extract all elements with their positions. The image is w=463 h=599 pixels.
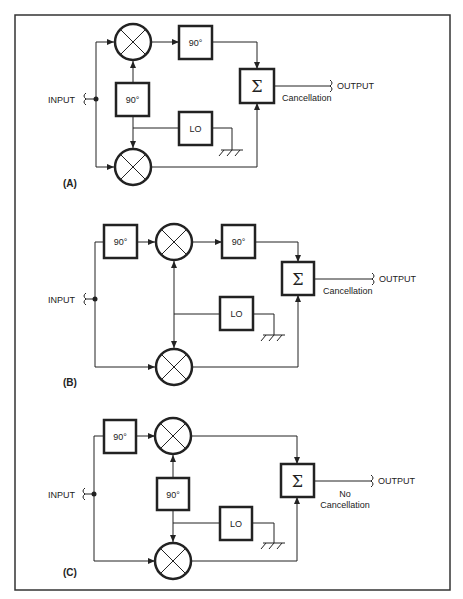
- output-label: OUTPUT: [378, 476, 416, 486]
- input-brace-icon: [84, 93, 86, 105]
- panel-label: (A): [63, 178, 77, 189]
- svg-text:LO: LO: [189, 124, 201, 134]
- svg-text:LO: LO: [230, 309, 242, 319]
- ground-icon: [252, 523, 285, 549]
- output-label: OUTPUT: [337, 81, 375, 91]
- output-label: OUTPUT: [379, 274, 417, 284]
- panel-label: (B): [63, 377, 77, 388]
- mixer-top-icon: [155, 418, 191, 454]
- svg-text:90°: 90°: [113, 432, 127, 442]
- input-brace-icon: [84, 293, 86, 305]
- mixer-bottom-icon: [115, 149, 151, 185]
- input-label: INPUT: [48, 95, 76, 105]
- input-brace-icon: [83, 488, 85, 500]
- result-label-line2: Cancellation: [320, 500, 370, 510]
- output-brace-icon: [372, 273, 374, 285]
- result-label: Cancellation: [323, 286, 373, 296]
- mixer-bottom-icon: [156, 349, 192, 385]
- svg-text:Σ: Σ: [292, 270, 303, 289]
- ground-icon: [253, 314, 285, 341]
- output-brace-icon: [330, 80, 332, 92]
- result-label: Cancellation: [282, 93, 332, 103]
- output-brace-icon: [371, 475, 373, 487]
- svg-text:90°: 90°: [126, 95, 140, 105]
- panel-label: (C): [63, 567, 77, 578]
- svg-text:Σ: Σ: [251, 77, 262, 96]
- panel-a: INPUT 90° LO: [48, 24, 375, 189]
- svg-text:90°: 90°: [189, 38, 203, 48]
- input-label: INPUT: [48, 295, 76, 305]
- svg-text:LO: LO: [230, 519, 242, 529]
- ground-icon: [212, 128, 243, 156]
- svg-text:90°: 90°: [114, 237, 128, 247]
- result-label-line1: No: [339, 489, 351, 499]
- svg-text:Σ: Σ: [292, 472, 303, 491]
- input-label: INPUT: [48, 490, 76, 500]
- mixer-diagram: INPUT 90° LO: [0, 0, 463, 599]
- panel-b: INPUT 90° LO: [48, 224, 417, 388]
- mixer-top-icon: [115, 24, 151, 60]
- svg-text:90°: 90°: [166, 490, 180, 500]
- mixer-top-icon: [156, 224, 192, 260]
- panel-c: INPUT 90° 90° LO: [48, 418, 416, 579]
- mixer-bottom-icon: [155, 543, 191, 579]
- svg-text:90°: 90°: [232, 237, 246, 247]
